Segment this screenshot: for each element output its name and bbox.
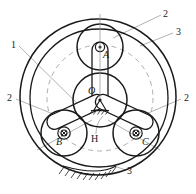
label-planet-gear-2-left: 2 bbox=[7, 93, 12, 103]
label-planet-a: A bbox=[103, 50, 109, 60]
gear-diagram-canvas bbox=[0, 0, 196, 194]
label-planet-gear-2-right: 2 bbox=[184, 93, 189, 103]
label-carrier-h: H bbox=[91, 134, 98, 144]
label-sun-gear-1: 1 bbox=[11, 40, 16, 50]
label-planet-c: C bbox=[142, 137, 149, 147]
label-ring-gear-3-top: 3 bbox=[176, 27, 181, 37]
gear-diagram-figure: O A B C H 1 2 3 2 2 3 bbox=[0, 0, 196, 194]
label-planet-gear-2-top: 2 bbox=[163, 9, 168, 19]
label-ring-gear-3-bottom: 3 bbox=[127, 166, 132, 176]
leader-line-sun-gear bbox=[19, 46, 86, 112]
pin-marker-c bbox=[130, 127, 142, 139]
label-center-o: O bbox=[88, 86, 95, 96]
label-planet-b: B bbox=[56, 137, 62, 147]
leader-line-carrier bbox=[96, 116, 103, 134]
